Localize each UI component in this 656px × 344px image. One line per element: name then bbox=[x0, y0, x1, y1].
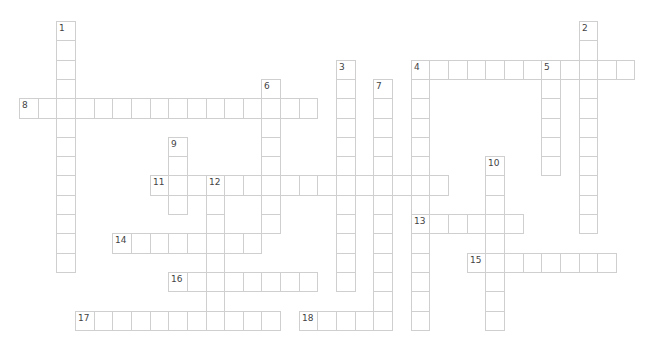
crossword-cell[interactable] bbox=[336, 311, 356, 331]
crossword-cell[interactable] bbox=[150, 311, 169, 331]
crossword-cell[interactable] bbox=[168, 233, 188, 254]
crossword-cell[interactable] bbox=[429, 60, 449, 80]
crossword-cell[interactable] bbox=[411, 156, 430, 176]
crossword-cell[interactable] bbox=[429, 175, 449, 196]
crossword-cell[interactable] bbox=[373, 118, 393, 138]
crossword-cell[interactable] bbox=[597, 253, 617, 273]
crossword-cell[interactable] bbox=[485, 214, 505, 234]
crossword-cell[interactable]: 15 bbox=[467, 253, 486, 273]
crossword-cell[interactable] bbox=[392, 175, 412, 196]
crossword-cell[interactable] bbox=[56, 60, 76, 80]
crossword-cell[interactable] bbox=[336, 253, 356, 273]
crossword-cell[interactable] bbox=[579, 79, 598, 99]
crossword-cell[interactable] bbox=[56, 79, 76, 99]
crossword-cell[interactable] bbox=[373, 214, 393, 234]
crossword-cell[interactable] bbox=[411, 98, 430, 119]
crossword-cell[interactable] bbox=[94, 98, 113, 119]
crossword-cell[interactable] bbox=[224, 272, 244, 292]
crossword-cell[interactable] bbox=[112, 311, 132, 331]
crossword-cell[interactable] bbox=[579, 98, 598, 119]
crossword-cell[interactable] bbox=[187, 98, 207, 119]
crossword-cell[interactable] bbox=[224, 233, 244, 254]
crossword-cell[interactable]: 17 bbox=[75, 311, 95, 331]
crossword-cell[interactable] bbox=[299, 175, 318, 196]
crossword-cell[interactable] bbox=[261, 311, 281, 331]
crossword-cell[interactable] bbox=[597, 60, 617, 80]
crossword-cell[interactable] bbox=[187, 272, 207, 292]
crossword-cell[interactable]: 9 bbox=[168, 137, 188, 157]
crossword-cell[interactable] bbox=[336, 195, 356, 215]
crossword-cell[interactable] bbox=[56, 233, 76, 254]
crossword-cell[interactable] bbox=[206, 233, 225, 254]
crossword-cell[interactable]: 18 bbox=[299, 311, 318, 331]
crossword-cell[interactable]: 1 bbox=[56, 21, 76, 41]
crossword-cell[interactable] bbox=[336, 214, 356, 234]
crossword-cell[interactable] bbox=[485, 195, 505, 215]
crossword-cell[interactable] bbox=[485, 233, 505, 254]
crossword-cell[interactable] bbox=[485, 175, 505, 196]
crossword-cell[interactable] bbox=[224, 98, 244, 119]
crossword-cell[interactable] bbox=[541, 118, 561, 138]
crossword-cell[interactable] bbox=[411, 253, 430, 273]
crossword-cell[interactable] bbox=[261, 195, 281, 215]
crossword-cell[interactable] bbox=[317, 175, 337, 196]
crossword-cell[interactable] bbox=[224, 175, 244, 196]
crossword-cell[interactable] bbox=[429, 214, 449, 234]
crossword-cell[interactable] bbox=[336, 118, 356, 138]
crossword-cell[interactable] bbox=[504, 253, 524, 273]
crossword-cell[interactable] bbox=[38, 98, 57, 119]
crossword-cell[interactable] bbox=[206, 98, 225, 119]
crossword-cell[interactable]: 7 bbox=[373, 79, 393, 99]
crossword-cell[interactable] bbox=[112, 98, 132, 119]
crossword-cell[interactable] bbox=[467, 60, 486, 80]
crossword-cell[interactable] bbox=[448, 214, 468, 234]
crossword-cell[interactable] bbox=[56, 98, 76, 119]
crossword-cell[interactable] bbox=[616, 60, 635, 80]
crossword-cell[interactable] bbox=[280, 175, 300, 196]
crossword-cell[interactable] bbox=[336, 137, 356, 157]
crossword-cell[interactable] bbox=[56, 156, 76, 176]
crossword-cell[interactable] bbox=[336, 79, 356, 99]
crossword-cell[interactable]: 12 bbox=[206, 175, 225, 196]
crossword-cell[interactable] bbox=[485, 272, 505, 292]
crossword-cell[interactable] bbox=[373, 272, 393, 292]
crossword-cell[interactable] bbox=[579, 156, 598, 176]
crossword-cell[interactable] bbox=[355, 175, 374, 196]
crossword-cell[interactable] bbox=[206, 195, 225, 215]
crossword-cell[interactable] bbox=[243, 311, 262, 331]
crossword-cell[interactable]: 10 bbox=[485, 156, 505, 176]
crossword-cell[interactable] bbox=[187, 311, 207, 331]
crossword-cell[interactable] bbox=[373, 291, 393, 312]
crossword-cell[interactable]: 4 bbox=[411, 60, 430, 80]
crossword-cell[interactable] bbox=[206, 214, 225, 234]
crossword-cell[interactable] bbox=[261, 214, 281, 234]
crossword-cell[interactable] bbox=[411, 233, 430, 254]
crossword-cell[interactable] bbox=[411, 137, 430, 157]
crossword-cell[interactable] bbox=[336, 156, 356, 176]
crossword-cell[interactable] bbox=[56, 137, 76, 157]
crossword-cell[interactable] bbox=[187, 175, 207, 196]
crossword-cell[interactable] bbox=[579, 214, 598, 234]
crossword-cell[interactable] bbox=[336, 272, 356, 292]
crossword-cell[interactable] bbox=[317, 311, 337, 331]
crossword-cell[interactable] bbox=[541, 253, 561, 273]
crossword-cell[interactable]: 2 bbox=[579, 21, 598, 41]
crossword-cell[interactable] bbox=[56, 195, 76, 215]
crossword-cell[interactable] bbox=[523, 60, 542, 80]
crossword-cell[interactable] bbox=[485, 291, 505, 312]
crossword-cell[interactable] bbox=[261, 137, 281, 157]
crossword-cell[interactable] bbox=[579, 195, 598, 215]
crossword-cell[interactable] bbox=[541, 156, 561, 176]
crossword-cell[interactable] bbox=[168, 175, 188, 196]
crossword-cell[interactable] bbox=[373, 156, 393, 176]
crossword-cell[interactable]: 8 bbox=[19, 98, 39, 119]
crossword-cell[interactable]: 14 bbox=[112, 233, 132, 254]
crossword-cell[interactable] bbox=[261, 175, 281, 196]
crossword-cell[interactable] bbox=[411, 118, 430, 138]
crossword-cell[interactable] bbox=[541, 79, 561, 99]
crossword-cell[interactable] bbox=[411, 272, 430, 292]
crossword-cell[interactable] bbox=[56, 175, 76, 196]
crossword-cell[interactable] bbox=[131, 98, 151, 119]
crossword-cell[interactable] bbox=[336, 98, 356, 119]
crossword-cell[interactable] bbox=[94, 311, 113, 331]
